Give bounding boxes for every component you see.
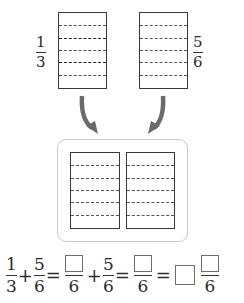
division-line bbox=[127, 202, 174, 203]
denominator: 6 bbox=[205, 278, 216, 295]
division-line bbox=[127, 165, 174, 166]
denominator: 6 bbox=[137, 278, 148, 295]
numerator-answer-box[interactable] bbox=[134, 255, 152, 272]
plus-sign: + bbox=[18, 265, 33, 286]
division-line bbox=[71, 190, 119, 191]
division-line bbox=[71, 202, 119, 203]
denominator: 6 bbox=[34, 278, 45, 295]
equals-sign: = bbox=[115, 265, 130, 286]
denominator: 6 bbox=[68, 278, 79, 295]
division-line bbox=[71, 178, 119, 179]
equals-sign: = bbox=[156, 265, 171, 286]
combined-strip-left bbox=[70, 152, 120, 229]
fraction-one-third: 1 3 bbox=[6, 256, 17, 295]
curved-arrow-down-left-icon bbox=[148, 96, 163, 134]
equals-sign: = bbox=[46, 265, 61, 286]
numerator: 1 bbox=[6, 256, 17, 273]
division-line bbox=[71, 165, 119, 166]
equation: 1 3 + 5 6 = 6 + 5 6 = 6 = 6 bbox=[6, 255, 222, 295]
numerator: 5 bbox=[103, 256, 114, 273]
combined-strip-right bbox=[126, 152, 175, 229]
denominator: 3 bbox=[6, 278, 17, 295]
numerator-answer-box[interactable] bbox=[201, 255, 219, 272]
blank-fraction-1: 6 bbox=[62, 255, 86, 295]
blank-fraction-2: 6 bbox=[131, 255, 155, 295]
division-line bbox=[127, 215, 174, 216]
numerator: 5 bbox=[34, 256, 45, 273]
whole-number-answer-box[interactable] bbox=[175, 265, 195, 285]
mixed-fraction-part: 6 bbox=[198, 255, 222, 295]
division-line bbox=[71, 215, 119, 216]
division-line bbox=[127, 178, 174, 179]
numerator-answer-box[interactable] bbox=[65, 255, 83, 272]
fraction-five-sixths-2: 5 6 bbox=[103, 256, 114, 295]
curved-arrow-down-right-icon bbox=[82, 96, 98, 134]
plus-sign: + bbox=[87, 265, 102, 286]
denominator: 6 bbox=[103, 278, 114, 295]
fraction-five-sixths: 5 6 bbox=[34, 256, 45, 295]
division-line bbox=[127, 190, 174, 191]
